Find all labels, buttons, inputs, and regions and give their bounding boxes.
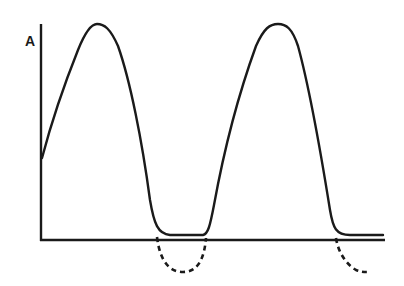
waveform-figure: A <box>0 0 404 286</box>
clipped-waveform-line <box>42 24 383 235</box>
suppressed-lobe-2-dashed <box>336 238 368 272</box>
waveform-chart: A <box>0 0 404 286</box>
suppressed-lobe-1-dashed <box>157 237 206 272</box>
y-axis-label: A <box>25 33 35 49</box>
